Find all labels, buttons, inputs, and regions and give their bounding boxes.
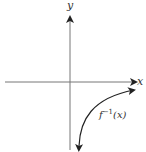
y-axis-label: y: [67, 0, 73, 11]
curve-label: f−1(x): [99, 110, 126, 120]
curve-label-superscript: −1: [103, 108, 113, 116]
function-graph: [0, 0, 146, 152]
curve-label-arg: (x): [113, 109, 126, 120]
x-axis-label: x: [137, 76, 143, 87]
